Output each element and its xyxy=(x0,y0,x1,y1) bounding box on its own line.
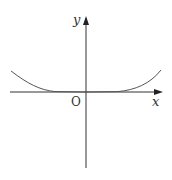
function-graph: y x O xyxy=(0,0,172,180)
origin-label: O xyxy=(71,95,81,109)
y-axis-label: y xyxy=(72,12,81,27)
y-axis-arrow-icon xyxy=(83,16,89,25)
x-axis-label: x xyxy=(152,94,160,109)
